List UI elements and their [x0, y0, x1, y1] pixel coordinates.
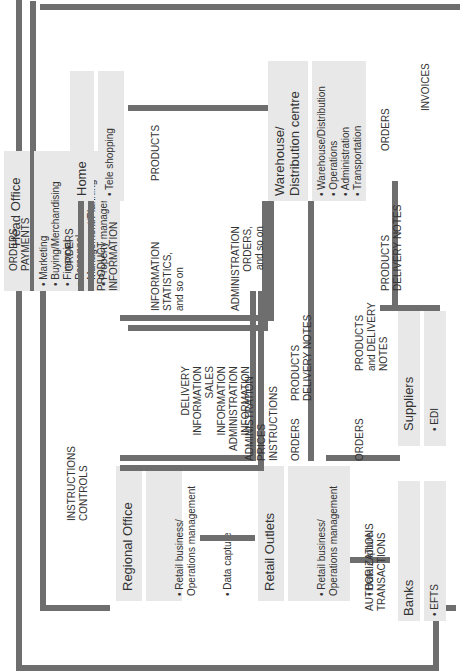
flow-authorizations-transactions: AUTHORIZATIONS TRANSACTIONS: [364, 523, 388, 611]
retail-outlets-title: Retail Outlets: [262, 513, 277, 591]
regional-office-title: Regional Office: [120, 502, 135, 591]
warehouse-list: Warehouse/Distribution Operations Admini…: [316, 86, 364, 196]
flow-instructions-controls: INSTRUCTIONS CONTROLS: [66, 446, 90, 521]
suppliers-item: EDI: [429, 408, 441, 431]
banks-list: EFTS: [429, 584, 441, 616]
banks-item: EFTS: [429, 584, 441, 616]
suppliers-title: Suppliers: [401, 377, 416, 431]
regional-office-item: Retail business/ Operations management: [174, 486, 198, 596]
home-list: Tele shopping: [104, 128, 116, 196]
flow-delivery-sales-admin: DELIVERY INFORMATION SALES INFORMATION A…: [180, 366, 252, 451]
flow-invoices: INVOICES: [420, 63, 432, 111]
warehouse-title: Warehouse/ Distribution centre: [272, 91, 302, 196]
warehouse-item: Warehouse/Distribution: [316, 86, 328, 196]
flow-admin-prices-instructions: ADMINISTRATION PRICES INSTRUCTIONS: [244, 376, 280, 461]
connector-instructions-stem: [40, 291, 46, 611]
warehouse-item: Administration: [340, 86, 352, 196]
flow-home-orders: ORDERS: [64, 228, 76, 271]
connector-instructions-controls: [40, 605, 110, 611]
connector-home-orders: [78, 201, 84, 291]
connector-ho-retail-b: [120, 465, 260, 471]
warehouse-item: Transportation: [352, 86, 364, 196]
connector-regional-retail: [200, 535, 255, 541]
connector-products-home: [128, 105, 268, 111]
banks-title: Banks: [401, 580, 416, 616]
suppliers-list: EDI: [429, 408, 441, 431]
head-office-item: Buying/Merchandising: [50, 180, 62, 286]
connector-right-side: [40, 4, 460, 10]
connector-outer-top: [16, 0, 22, 671]
flow-information-statistics: INFORMATION STATISTICS, and so on: [150, 242, 186, 311]
flow-products-home: PRODUCTS: [150, 125, 162, 181]
connector-product-info: [88, 201, 94, 291]
home-item: Tele shopping: [104, 128, 116, 196]
flow-supplier-orders: ORDERS: [380, 108, 392, 151]
warehouse-item: Operations: [328, 86, 340, 196]
connector-retail-suppliers-b: [338, 455, 400, 461]
flow-products-and-delivery-notes: PRODUCTS and DELIVERY NOTES: [354, 302, 390, 371]
flow-orders-payments: ORDERS PAYMENTS: [8, 217, 32, 271]
connector-admin-orders-v: [268, 201, 274, 321]
flow-products-delivery-notes-retail: PRODUCTS DELIVERY NOTES: [290, 315, 314, 401]
flow-product-information: PRODUCT INFORMATION: [96, 222, 120, 291]
connector-info-stats-h: [128, 325, 268, 331]
connector-ho-retail-a: [120, 455, 255, 461]
head-office-item: Marketing: [38, 180, 50, 286]
flow-administration-orders: ADMINISTRATION ORDERS, and so on: [230, 226, 266, 311]
connector-left-side: [16, 665, 436, 671]
retail-outlets-item: Retail business/ Operations management: [316, 486, 340, 596]
flow-retail-orders: ORDERS: [290, 418, 302, 461]
flow-products-delivery-notes-wh: PRODUCTS DELIVERY NOTES: [380, 205, 404, 291]
connector-bottom-edge: [433, 615, 439, 671]
home-title: Home: [74, 161, 89, 196]
flow-retail-supplier-orders: ORDERS: [354, 418, 366, 461]
